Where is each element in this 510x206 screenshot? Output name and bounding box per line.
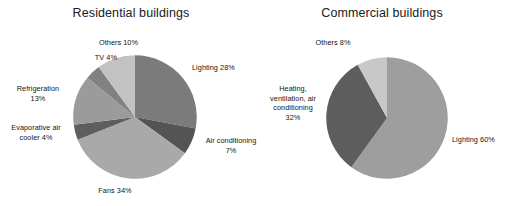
- pie-chart-figure: Residential buildings Others 10%: [0, 0, 510, 206]
- pie-slice-lighting: [135, 55, 197, 128]
- label-commercial-others: Others 8%: [298, 38, 368, 48]
- residential-pie-svg: [72, 54, 198, 180]
- label-residential-lighting: Lighting 28%: [192, 63, 270, 73]
- residential-pie: [72, 54, 198, 180]
- residential-chart-title: Residential buildings: [0, 6, 262, 20]
- label-commercial-hvac: Heating, ventilation, air conditioning 3…: [262, 84, 324, 122]
- label-commercial-lighting: Lighting 60%: [452, 135, 510, 145]
- commercial-pie-svg: [325, 56, 449, 180]
- commercial-chart-panel: Commercial buildings Others 8% Heating, …: [262, 0, 510, 206]
- label-residential-evaporative-air-cooler: Evaporative air cooler 4%: [2, 123, 70, 142]
- label-residential-refrigeration: Refrigeration 13%: [6, 84, 70, 103]
- commercial-pie: [325, 56, 449, 180]
- label-residential-tv: TV 4%: [55, 53, 117, 63]
- commercial-chart-title: Commercial buildings: [258, 6, 506, 20]
- label-residential-others: Others 10%: [68, 38, 138, 48]
- residential-chart-panel: Residential buildings Others 10%: [0, 0, 262, 206]
- label-residential-fans: Fans 34%: [78, 186, 152, 196]
- label-residential-air-conditioning: Air conditioning 7%: [198, 136, 264, 155]
